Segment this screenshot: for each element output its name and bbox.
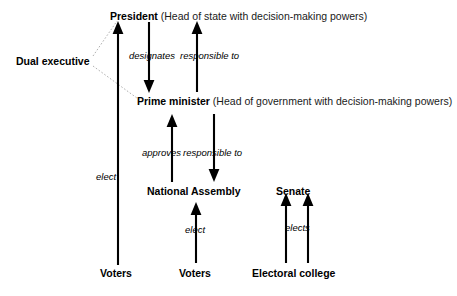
node-senate: Senate [276, 186, 310, 197]
node-president: President (Head of state with decision-m… [110, 11, 367, 22]
node-voters-president: Voters [100, 268, 132, 279]
node-prime-minister-label: Prime minister [137, 95, 210, 107]
node-senate-label: Senate [276, 185, 310, 197]
node-national-assembly: National Assembly [147, 186, 241, 197]
edge-label-responsible-to-president: responsible to [180, 51, 239, 61]
arrow-head-designates [144, 80, 155, 93]
node-voters-president-label: Voters [100, 267, 132, 279]
arrow-head-responsible-to-assembly [209, 169, 220, 182]
diagram-canvas: Dual executive President (Head of state … [0, 0, 457, 296]
node-voters-assembly-label: Voters [179, 267, 211, 279]
leader-line-president [93, 21, 117, 56]
node-prime-minister: Prime minister (Head of government with … [137, 96, 452, 107]
arrow-head-voters-elect-president [113, 21, 124, 34]
node-president-label: President [110, 10, 158, 22]
node-national-assembly-label: National Assembly [147, 185, 241, 197]
group-label-dual-executive: Dual executive [16, 56, 90, 67]
arrow-head-responsible-to-president [192, 21, 203, 34]
arrow-head-approves [167, 114, 178, 127]
arrow-head-voters-elect-assembly [191, 202, 202, 215]
edge-label-approves: approves [142, 148, 181, 158]
node-voters-assembly: Voters [179, 268, 211, 279]
edge-label-responsible-to-assembly: responsible to [183, 148, 242, 158]
edge-label-voters-elect-assembly: elect [185, 225, 205, 235]
node-electoral-college-label: Electoral college [252, 267, 335, 279]
node-electoral-college: Electoral college [252, 268, 335, 279]
edge-label-college-elects-senate: elects [285, 223, 310, 233]
node-president-description: (Head of state with decision-making powe… [158, 10, 368, 22]
edge-label-voters-elect-president: elect [96, 172, 116, 182]
node-prime-minister-description: (Head of government with decision-making… [210, 95, 452, 107]
edge-label-designates: designates [129, 51, 175, 61]
